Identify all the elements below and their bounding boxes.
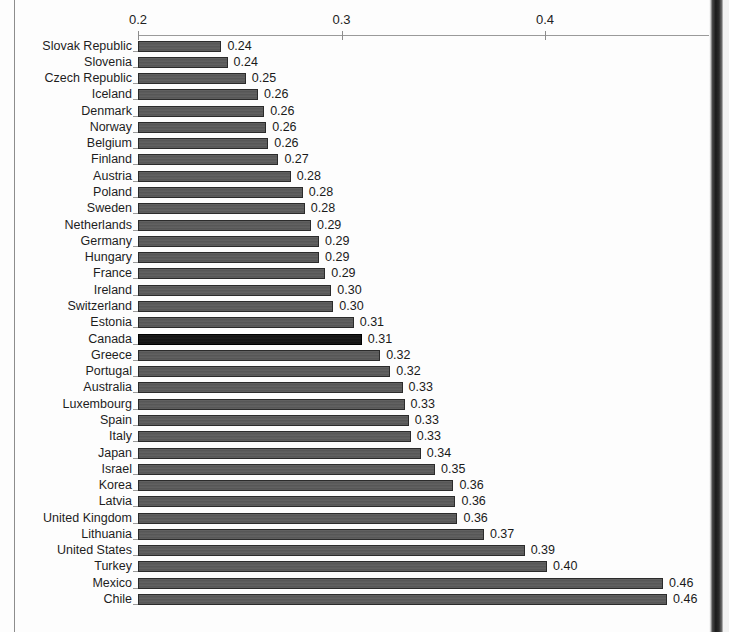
bar[interactable] (138, 106, 264, 117)
bar[interactable] (138, 41, 221, 52)
bar-row[interactable]: Belgium0.26 (0, 136, 729, 152)
bar-row[interactable]: Italy0.33 (0, 429, 729, 445)
category-label: Slovak Republic (42, 39, 132, 54)
bar-row[interactable]: Netherlands0.29 (0, 218, 729, 234)
bar-value-label: 0.33 (409, 380, 433, 395)
category-label: Chile (104, 592, 133, 607)
bar-row[interactable]: Spain0.33 (0, 413, 729, 429)
category-label: Lithuania (81, 527, 132, 542)
bar-row[interactable]: Portugal0.32 (0, 364, 729, 380)
bar[interactable] (138, 268, 325, 279)
bar[interactable] (138, 57, 228, 68)
bar[interactable] (138, 594, 667, 605)
bar-row[interactable]: Hungary0.29 (0, 250, 729, 266)
bar[interactable] (138, 399, 405, 410)
bar-row[interactable]: Estonia0.31 (0, 315, 729, 331)
bar-value-label: 0.32 (386, 348, 410, 363)
bar-row[interactable]: Korea0.36 (0, 478, 729, 494)
bar-row[interactable]: Luxembourg0.33 (0, 397, 729, 413)
bar[interactable] (138, 89, 258, 100)
bar-row[interactable]: Denmark0.26 (0, 104, 729, 120)
bar[interactable] (138, 382, 403, 393)
bar-row[interactable]: Iceland0.26 (0, 87, 729, 103)
bar[interactable] (138, 578, 663, 589)
bar-value-label: 0.40 (553, 559, 577, 574)
bar-highlighted[interactable] (138, 334, 362, 345)
bar-value-label: 0.29 (325, 250, 349, 265)
category-label: Canada (88, 332, 132, 347)
bar-row[interactable]: United States0.39 (0, 543, 729, 559)
bar[interactable] (138, 285, 331, 296)
bar[interactable] (138, 301, 333, 312)
bar[interactable] (138, 220, 311, 231)
bar-row[interactable]: Mexico0.46 (0, 576, 729, 592)
bar-row[interactable]: Chile0.46 (0, 592, 729, 608)
bar-value-label: 0.27 (284, 152, 308, 167)
bar[interactable] (138, 366, 390, 377)
bar-value-label: 0.33 (415, 413, 439, 428)
bar[interactable] (138, 480, 453, 491)
bar-row[interactable]: Japan0.34 (0, 446, 729, 462)
bar-row[interactable]: Germany0.29 (0, 234, 729, 250)
bar-row[interactable]: United Kingdom0.36 (0, 511, 729, 527)
bar[interactable] (138, 545, 525, 556)
bar-value-label: 0.33 (411, 397, 435, 412)
bar-row[interactable]: Turkey0.40 (0, 559, 729, 575)
page-spine-shadow (709, 0, 723, 632)
bar-value-label: 0.46 (669, 576, 693, 591)
x-axis-line (138, 35, 710, 36)
bar[interactable] (138, 252, 319, 263)
category-label: Poland (93, 185, 132, 200)
horizontal-bar-chart: 0.20.30.4 Slovak Republic0.24Slovenia0.2… (0, 0, 729, 632)
bar-row[interactable]: Canada0.31 (0, 332, 729, 348)
bar-row[interactable]: Slovak Republic0.24 (0, 39, 729, 55)
bar-row[interactable]: Austria0.28 (0, 169, 729, 185)
bar-value-label: 0.35 (441, 462, 465, 477)
bar[interactable] (138, 431, 411, 442)
bar[interactable] (138, 122, 266, 133)
bar[interactable] (138, 529, 484, 540)
bar-row[interactable]: France0.29 (0, 266, 729, 282)
bar-row[interactable]: Australia0.33 (0, 380, 729, 396)
bar-value-label: 0.32 (396, 364, 420, 379)
bar[interactable] (138, 464, 435, 475)
bar-row[interactable]: Ireland0.30 (0, 283, 729, 299)
bar-row[interactable]: Israel0.35 (0, 462, 729, 478)
bar-value-label: 0.26 (274, 136, 298, 151)
bar[interactable] (138, 513, 457, 524)
category-label: Latvia (99, 494, 132, 509)
bar[interactable] (138, 350, 380, 361)
bar-value-label: 0.36 (459, 478, 483, 493)
bar[interactable] (138, 496, 455, 507)
bar[interactable] (138, 317, 354, 328)
bar-value-label: 0.24 (227, 39, 251, 54)
bar[interactable] (138, 561, 547, 572)
bar[interactable] (138, 236, 319, 247)
bar[interactable] (138, 415, 409, 426)
bar[interactable] (138, 171, 291, 182)
bar-row[interactable]: Sweden0.28 (0, 201, 729, 217)
bar-value-label: 0.29 (331, 266, 355, 281)
bar[interactable] (138, 187, 303, 198)
bar[interactable] (138, 448, 421, 459)
bar-value-label: 0.29 (325, 234, 349, 249)
bar[interactable] (138, 154, 278, 165)
bar[interactable] (138, 73, 246, 84)
bar-row[interactable]: Switzerland0.30 (0, 299, 729, 315)
bar[interactable] (138, 138, 268, 149)
bar-row[interactable]: Norway0.26 (0, 120, 729, 136)
bar-row[interactable]: Slovenia0.24 (0, 55, 729, 71)
category-label: Italy (109, 429, 132, 444)
category-label: Spain (100, 413, 132, 428)
category-label: Finland (91, 152, 132, 167)
bar-row[interactable]: Greece0.32 (0, 348, 729, 364)
bar[interactable] (138, 203, 305, 214)
bar-row[interactable]: Czech Republic0.25 (0, 71, 729, 87)
bar-row[interactable]: Latvia0.36 (0, 494, 729, 510)
category-label: Czech Republic (44, 71, 132, 86)
bar-row[interactable]: Finland0.27 (0, 152, 729, 168)
bar-row[interactable]: Poland0.28 (0, 185, 729, 201)
bar-value-label: 0.37 (490, 527, 514, 542)
category-label: Slovenia (84, 55, 132, 70)
bar-row[interactable]: Lithuania0.37 (0, 527, 729, 543)
